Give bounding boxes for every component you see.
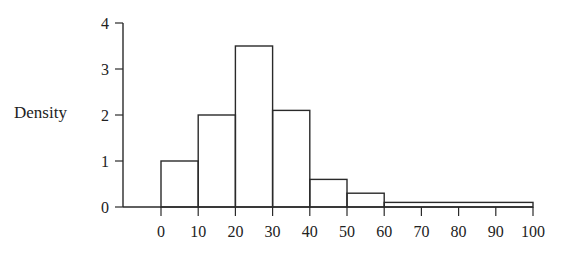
bars [161,46,533,207]
ticks: 012340102030405060708090100 [101,15,545,240]
histogram-bar [161,161,198,207]
x-tick-label: 40 [302,223,318,240]
x-tick-label: 0 [157,223,165,240]
histogram-bar [198,115,235,207]
y-tick-label: 2 [101,107,109,124]
x-tick-label: 80 [451,223,467,240]
y-tick-label: 4 [101,15,109,32]
x-tick-label: 50 [339,223,355,240]
x-tick-label: 10 [190,223,206,240]
y-tick-label: 0 [101,199,109,216]
y-tick-label: 1 [101,153,109,170]
histogram-bar [384,202,533,207]
x-tick-label: 30 [265,223,281,240]
histogram-bar [273,110,310,207]
y-tick-label: 3 [101,61,109,78]
histogram-bar [310,179,347,207]
x-tick-label: 90 [488,223,504,240]
histogram-bar [235,46,272,207]
x-tick-label: 60 [376,223,392,240]
x-tick-label: 20 [227,223,243,240]
x-tick-label: 70 [413,223,429,240]
x-tick-label: 100 [521,223,545,240]
histogram-chart: 012340102030405060708090100 [0,0,568,253]
histogram-bar [347,193,384,207]
